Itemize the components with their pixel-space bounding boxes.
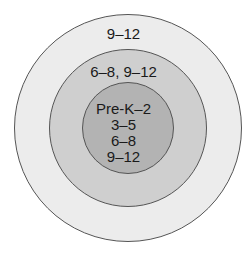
inner-label-line-1: Pre-K–2 — [0, 101, 247, 117]
outer-ring-label: 9–12 — [0, 26, 247, 42]
inner-label-line-2: 3–5 — [0, 117, 247, 133]
inner-label-line-3: 6–8 — [0, 133, 247, 149]
inner-label-line-4: 9–12 — [0, 149, 247, 165]
middle-ring-label: 6–8, 9–12 — [0, 64, 247, 80]
